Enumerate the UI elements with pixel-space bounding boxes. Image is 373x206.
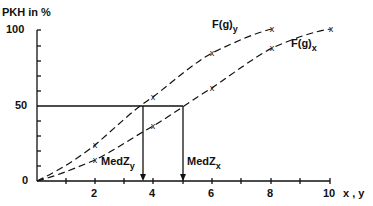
- y-tick-0: 0: [22, 174, 28, 186]
- x-tick-6: 6: [208, 187, 214, 199]
- medzy-label: MedZy: [101, 155, 135, 167]
- svg-text:x: x: [270, 24, 275, 34]
- x-tick-2: 2: [91, 187, 97, 199]
- svg-text:x: x: [270, 43, 275, 53]
- chart-canvas: xxxx xxxxx: [0, 0, 373, 206]
- medzx-label: MedZx: [187, 155, 221, 167]
- y-axis-label: PKH in %: [2, 6, 51, 18]
- svg-text:x: x: [151, 92, 156, 102]
- x-tick-8: 8: [267, 187, 273, 199]
- x-axis-label: x , y: [343, 187, 364, 199]
- medzx-arrowhead: [180, 174, 186, 181]
- svg-text:x: x: [93, 140, 98, 150]
- legend-fgy: F(g)y: [212, 18, 238, 30]
- curve-fgy: [37, 29, 272, 181]
- svg-text:x: x: [93, 155, 98, 165]
- svg-text:x: x: [210, 48, 215, 58]
- svg-text:x: x: [151, 121, 156, 131]
- svg-text:x: x: [329, 24, 334, 34]
- legend-fgx: F(g)x: [291, 37, 317, 49]
- x-tick-4: 4: [149, 187, 155, 199]
- y-tick-100: 100: [6, 23, 24, 35]
- y-tick-50: 50: [15, 99, 27, 111]
- x-tick-10: 10: [323, 187, 335, 199]
- medzy-arrowhead: [140, 174, 146, 181]
- curve-fgx: [37, 29, 331, 181]
- svg-text:x: x: [210, 83, 215, 93]
